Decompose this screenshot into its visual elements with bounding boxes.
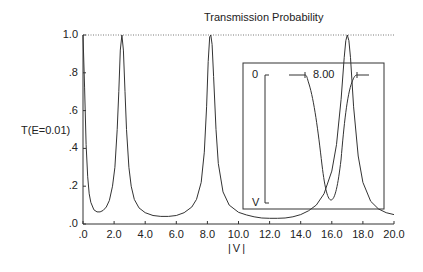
x-tick-label: 2.0 <box>106 228 121 240</box>
y-tick-label: .4 <box>69 141 78 153</box>
y-tick-label: 1.0 <box>63 28 78 40</box>
inset-v-bracket <box>265 75 269 203</box>
y-axis-label: T(E=0.01) <box>21 124 70 136</box>
x-tick-label: 10.0 <box>228 228 249 240</box>
y-tick-label: .8 <box>69 66 78 78</box>
x-tick-label: 4.0 <box>138 228 153 240</box>
x-tick-label: 20.0 <box>383 228 404 240</box>
x-tick-label: 12.0 <box>259 228 280 240</box>
y-tick-label: .6 <box>69 104 78 116</box>
chart-title: Transmission Probability <box>204 11 323 23</box>
x-tick-label: 14.0 <box>290 228 311 240</box>
inset-value-label: 8.00 <box>313 68 334 80</box>
x-tick-label: .0 <box>78 228 87 240</box>
x-tick-label: 18.0 <box>352 228 373 240</box>
transmission-curve <box>83 35 394 218</box>
inset-v-label: V <box>252 196 259 208</box>
inset-box <box>243 63 384 209</box>
inset-well-curve <box>289 75 369 200</box>
y-tick-label: .0 <box>69 217 78 229</box>
x-axis-label: |V| <box>228 242 247 254</box>
inset-zero-label: 0 <box>252 68 258 80</box>
x-tick-label: 16.0 <box>321 228 342 240</box>
x-tick-label: 8.0 <box>200 228 215 240</box>
y-tick-label: .2 <box>69 179 78 191</box>
x-tick-label: 6.0 <box>169 228 184 240</box>
